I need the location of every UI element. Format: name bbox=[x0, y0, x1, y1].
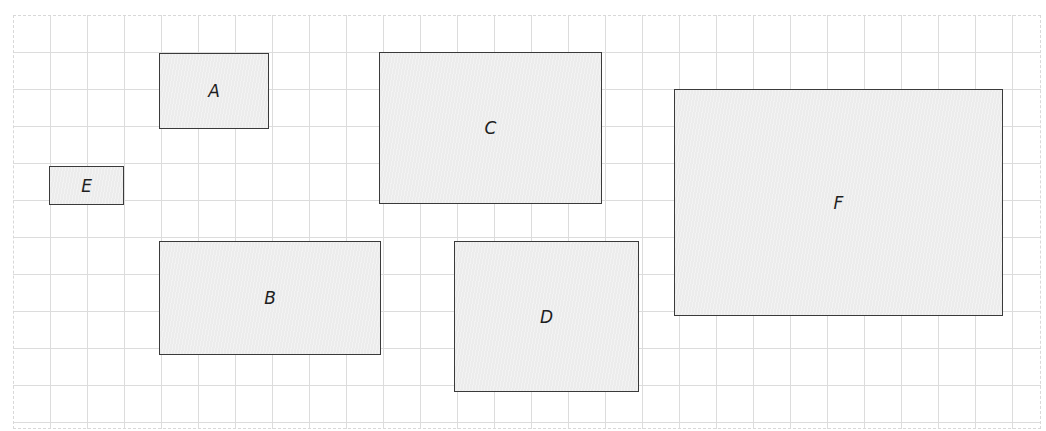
rectangle-a-label: A bbox=[208, 81, 220, 101]
rectangle-c-label: C bbox=[485, 118, 497, 138]
rectangle-f: F bbox=[674, 89, 1003, 316]
rectangle-b-label: B bbox=[264, 288, 276, 308]
rectangle-d: D bbox=[454, 241, 639, 392]
rectangle-b: B bbox=[159, 241, 381, 355]
rectangle-c: C bbox=[379, 52, 602, 204]
rectangle-e: E bbox=[49, 166, 124, 205]
rectangle-a: A bbox=[159, 53, 269, 129]
diagram-canvas: A B C D E F bbox=[0, 0, 1046, 431]
rectangle-f-label: F bbox=[834, 193, 844, 213]
rectangle-d-label: D bbox=[540, 307, 553, 327]
rectangle-e-label: E bbox=[81, 176, 92, 196]
